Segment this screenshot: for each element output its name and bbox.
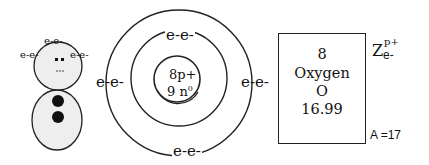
atomic-number: 8 (279, 47, 365, 62)
nucleus-neutrons: 9 n0 (167, 84, 193, 99)
element-name: Oxygen (279, 66, 365, 81)
snowman-electrons-left: e-e- (20, 50, 39, 60)
electrons-left: e-e- (96, 75, 124, 90)
snowman-electrons-top: e-e- (44, 36, 63, 46)
snowman-mouth-dot (56, 70, 58, 72)
nucleus-protons: 8p+ (169, 67, 197, 82)
snowman-electrons-right: e-e- (70, 50, 89, 60)
electrons-top: e-e- (165, 28, 195, 43)
snowman-mouth-dot (59, 70, 61, 72)
snowman-mouth-dot (62, 70, 64, 72)
neutron-superscript: 0 (188, 84, 193, 93)
element-tile: 8 Oxygen O 16.99 (278, 33, 366, 144)
mass-number: A =17 (370, 128, 401, 142)
element-symbol: O (279, 84, 365, 99)
snowman-button-2 (52, 111, 64, 123)
snowman-button-1 (52, 95, 64, 107)
z-subscript: e- (383, 48, 394, 62)
atomic-mass: 16.99 (279, 102, 365, 117)
z-superscript: p+ (384, 36, 399, 47)
electrons-bottom: e-e- (172, 144, 202, 159)
z-label: Z (372, 41, 383, 60)
electrons-right: e-e- (241, 75, 269, 90)
snowman-eye-right (61, 58, 64, 61)
neutron-count: 9 n (167, 84, 188, 99)
snowman-eye-left (55, 58, 58, 61)
